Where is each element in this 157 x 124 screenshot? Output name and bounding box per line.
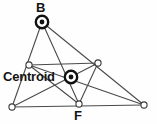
bullseye-dot	[40, 20, 45, 25]
bullseye-dot	[69, 75, 74, 80]
diagram-canvas	[0, 0, 157, 124]
centroid-label: Centroid	[3, 70, 55, 83]
point-marker-d	[26, 62, 32, 68]
point-marker-c	[141, 102, 147, 108]
point-marker-f	[76, 101, 82, 107]
vertex-label-b: B	[36, 1, 45, 14]
open-circle	[95, 60, 101, 66]
point-marker-e	[95, 60, 101, 66]
vertex-label-f: F	[74, 109, 82, 122]
segment-midline-D-E	[29, 63, 98, 65]
segment-median-B-F	[42, 22, 79, 104]
point-marker-g	[65, 71, 77, 83]
open-circle	[141, 102, 147, 108]
open-circle	[76, 101, 82, 107]
markers-layer	[9, 16, 147, 110]
point-marker-b	[36, 16, 48, 28]
point-marker-a	[9, 104, 15, 110]
centroid-diagram: B F Centroid	[0, 0, 157, 124]
open-circle	[26, 62, 32, 68]
open-circle	[9, 104, 15, 110]
